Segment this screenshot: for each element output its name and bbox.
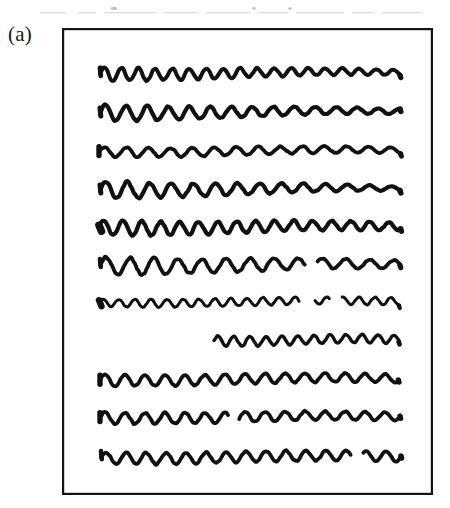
scribble-row-7-tail bbox=[399, 305, 400, 308]
scribble-row-11-tail bbox=[401, 456, 402, 459]
scribble-row-5-lead-in bbox=[99, 225, 102, 231]
scribble-row-4-tail bbox=[400, 190, 401, 193]
scribble-row-6-tail bbox=[400, 265, 401, 268]
scribble-row-9-tail bbox=[398, 380, 399, 383]
scribble-canvas bbox=[62, 28, 433, 495]
scribble-row-2-tail bbox=[400, 109, 401, 112]
scribble-row-3-tail bbox=[400, 154, 401, 157]
scribble-row-4-lead-in bbox=[100, 185, 101, 193]
scribble-row-1-lead-in bbox=[100, 68, 101, 76]
scribble-row-2-lead-in bbox=[100, 108, 101, 116]
figure-bounding-box bbox=[62, 28, 433, 495]
scribble-row-7-lead-in bbox=[99, 300, 102, 306]
scribble-row-5-tail bbox=[400, 229, 401, 232]
page-bleed-text-fragment bbox=[38, 2, 428, 11]
scribble-row-1-tail bbox=[400, 75, 401, 78]
scribble-row-6-lead-in bbox=[100, 259, 101, 267]
scribble-row-8-tail bbox=[399, 342, 400, 345]
scribble-row-11-lead-in bbox=[101, 451, 102, 459]
scribble-row-10-tail bbox=[400, 416, 401, 419]
figure-panel-label: (a) bbox=[8, 24, 32, 45]
